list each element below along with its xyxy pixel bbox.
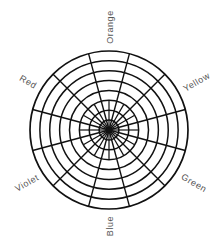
grid-spoke [89, 54, 109, 130]
label-blue: Blue [105, 216, 115, 236]
label-orange: Orange [105, 10, 115, 44]
grid-spoke [109, 130, 185, 150]
grid-spoke [109, 130, 129, 206]
grid-spoke [109, 110, 185, 130]
grid-spoke [89, 130, 109, 206]
grid-spoke [109, 54, 129, 130]
grid-spoke [33, 110, 109, 130]
grid-spoke [33, 130, 109, 150]
center-hub [106, 127, 113, 134]
